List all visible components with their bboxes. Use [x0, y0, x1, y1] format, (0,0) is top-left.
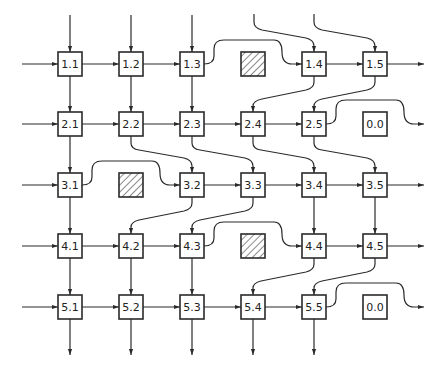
arrow-connector — [253, 76, 314, 112]
arrow-connector — [254, 14, 314, 52]
node-label: 3.1 — [61, 179, 79, 192]
node-label: 0.0 — [366, 301, 384, 314]
node-label: 3.2 — [183, 179, 201, 192]
node-box: 4.1 — [58, 234, 82, 258]
node-label: 2.1 — [61, 118, 79, 131]
node-box: 1.4 — [302, 52, 326, 76]
node-box: 3.2 — [180, 173, 204, 197]
empty-node: 0.0 — [363, 112, 387, 136]
arrow-connector — [192, 136, 253, 173]
node-label: 1.1 — [61, 58, 79, 71]
node-box: 5.1 — [58, 295, 82, 319]
node-box: 4.3 — [180, 234, 204, 258]
node-label: 5.3 — [183, 301, 201, 314]
node-box: 2.5 — [302, 112, 326, 136]
arrow-connector — [253, 136, 314, 173]
arrow-connector — [314, 76, 375, 112]
arrow-connector — [314, 258, 375, 295]
node-box: 3.5 — [363, 173, 387, 197]
node-label: 2.4 — [244, 118, 262, 131]
node-box: 1.3 — [180, 52, 204, 76]
node-box: 1.5 — [363, 52, 387, 76]
node-box: 4.2 — [119, 234, 143, 258]
node-box: 2.4 — [241, 112, 265, 136]
blocked-cell-hatched — [241, 234, 265, 258]
node-box: 5.2 — [119, 295, 143, 319]
node-box: 4.5 — [363, 234, 387, 258]
node-box: 5.4 — [241, 295, 265, 319]
node-label: 1.3 — [183, 58, 201, 71]
node-label: 4.2 — [122, 240, 140, 253]
node-box: 2.3 — [180, 112, 204, 136]
node-label: 4.4 — [305, 240, 323, 253]
node-label: 4.3 — [183, 240, 201, 253]
node-box: 4.4 — [302, 234, 326, 258]
node-label: 1.2 — [122, 58, 140, 71]
arrow-connector — [314, 14, 375, 52]
node-label: 5.2 — [122, 301, 140, 314]
node-box: 3.4 — [302, 173, 326, 197]
node-box: 2.1 — [58, 112, 82, 136]
node-label: 4.1 — [61, 240, 79, 253]
node-box: 1.1 — [58, 52, 82, 76]
arrow-connector — [131, 197, 192, 234]
node-box: 2.2 — [119, 112, 143, 136]
node-label: 1.4 — [305, 58, 323, 71]
blocked-cell-hatched — [241, 52, 265, 76]
node-label: 4.5 — [366, 240, 384, 253]
node-box: 5.5 — [302, 295, 326, 319]
node-label: 1.5 — [366, 58, 384, 71]
node-label: 3.5 — [366, 179, 384, 192]
node-label: 5.1 — [61, 301, 79, 314]
arrow-connector — [314, 136, 375, 173]
blocked-cell-hatched — [119, 173, 143, 197]
node-label: 2.3 — [183, 118, 201, 131]
node-label: 3.4 — [305, 179, 323, 192]
arrow-connector — [131, 136, 192, 173]
arrow-connector — [253, 258, 314, 295]
arrow-connector — [192, 197, 253, 234]
node-grid-diagram: 1.11.21.31.41.52.12.22.32.42.50.03.13.23… — [0, 0, 447, 373]
node-label: 0.0 — [366, 118, 384, 131]
node-label: 2.2 — [122, 118, 140, 131]
node-label: 3.3 — [244, 179, 262, 192]
node-label: 5.4 — [244, 301, 262, 314]
empty-node: 0.0 — [363, 295, 387, 319]
node-box: 1.2 — [119, 52, 143, 76]
node-box: 5.3 — [180, 295, 204, 319]
node-label: 2.5 — [305, 118, 323, 131]
node-label: 5.5 — [305, 301, 323, 314]
node-box: 3.3 — [241, 173, 265, 197]
node-box: 3.1 — [58, 173, 82, 197]
